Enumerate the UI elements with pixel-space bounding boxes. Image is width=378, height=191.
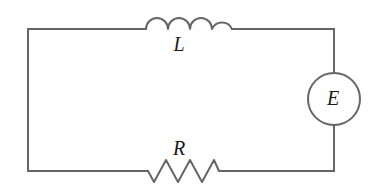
inductor-label: L — [164, 34, 194, 54]
emf-source-label: E — [318, 88, 348, 108]
resistor-symbol — [148, 160, 222, 182]
inductor-symbol — [146, 18, 232, 29]
resistor-label: R — [164, 138, 194, 158]
circuit-diagram: L R E — [0, 0, 378, 191]
